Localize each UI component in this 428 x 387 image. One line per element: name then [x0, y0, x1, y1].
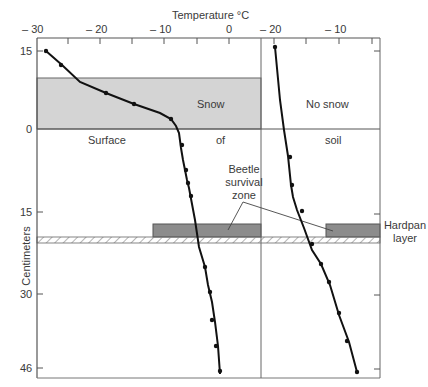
hardpan-label-line1: Hardpan — [381, 219, 428, 231]
beetle-zone-label-line3: zone — [214, 189, 274, 201]
y-tick-46: 46 — [20, 362, 32, 374]
beetle-zone-no-snow — [326, 224, 380, 237]
snow-label: Snow — [197, 98, 225, 110]
hardpan-label-line2: layer — [381, 232, 428, 244]
x-tick-minus-30: – 30 — [22, 23, 43, 35]
hardpan-layer — [37, 237, 380, 243]
no-snow-temperature-curve — [275, 47, 357, 372]
x-tick-0: 0 — [226, 23, 232, 35]
y-tick-0: 0 — [26, 123, 32, 135]
surface-label: Surface — [88, 134, 126, 146]
of-label: of — [216, 134, 225, 146]
no-snow-label: No snow — [306, 98, 349, 110]
y-axis-label: Centimeters — [20, 216, 32, 296]
x-tick-minus-10: – 10 — [150, 23, 171, 35]
no-snow-curve-points — [273, 45, 359, 374]
x-axis-title: Temperature °C — [172, 9, 249, 21]
y-tick-15-above: 15 — [20, 45, 32, 57]
x-tick-right-minus-20: – 20 — [260, 23, 281, 35]
beetle-zone-snow — [153, 224, 261, 237]
beetle-zone-label-line1: Beetle — [214, 163, 274, 175]
x-tick-minus-20: – 20 — [86, 23, 107, 35]
snow-band — [37, 78, 261, 129]
x-tick-right-minus-10: – 10 — [325, 23, 346, 35]
soil-label: soil — [325, 134, 342, 146]
beetle-zone-label-line2: survival — [214, 176, 274, 188]
